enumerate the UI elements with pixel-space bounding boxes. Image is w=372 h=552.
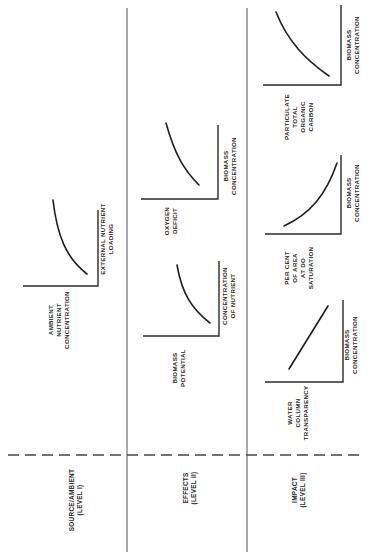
chart-curve	[177, 265, 210, 323]
chart-curve	[53, 200, 87, 274]
chart-curve	[166, 123, 199, 185]
chart-oxygen-deficit-vs-biomass: OXYGEN DEFICIT BIOMASS CONCENTRATION	[141, 123, 237, 235]
chart-axes	[141, 125, 218, 199]
level3-header: IMPACT (LEVEL III)	[291, 472, 307, 507]
x-axis-label: CONCENTRATION OF NUTRIENT	[221, 267, 236, 325]
chart-curve	[276, 12, 329, 76]
level2-header: EFFECTS (LEVEL II)	[182, 471, 198, 504]
y-axis-label: AMBIENT NUTRIENT CONCENTRATION	[47, 291, 70, 349]
chart-biomass-potential-vs-nutrient: BIOMASS POTENTIAL CONCENTRATION OF NUTRI…	[143, 261, 236, 387]
chart-transparency-vs-biomass: WATER COLUMN TRANSPARENCY BIOMASS CONCEN…	[265, 300, 358, 440]
svg-text:BIOMASS: BIOMASS	[345, 30, 352, 61]
eutrophication-levels-diagram: SOURCE/AMBIENT (LEVEL I) EFFECTS (LEVEL …	[0, 0, 372, 552]
y-axis-label: WATER COLUMN TRANSPARENCY	[286, 385, 309, 440]
svg-text:AT DO: AT DO	[299, 258, 306, 278]
svg-text:COLUMN: COLUMN	[294, 398, 301, 427]
svg-text:BIOMASS: BIOMASS	[171, 353, 178, 384]
chart-do-saturation-vs-biomass: PER CENT OF AREA AT DO SATURATION BIOMAS…	[265, 155, 360, 289]
svg-text:BIOMASS: BIOMASS	[222, 151, 229, 182]
level1-title: SOURCE/AMBIENT	[68, 469, 75, 531]
svg-text:OF AREA: OF AREA	[291, 253, 298, 283]
y-axis-label: PARTICULATE TOTAL ORGANIC CARBON	[283, 94, 314, 140]
svg-text:PER CENT: PER CENT	[283, 251, 290, 285]
svg-text:CONCENTRATION: CONCENTRATION	[351, 316, 358, 374]
svg-text:CONCENTRATION: CONCENTRATION	[353, 16, 360, 74]
chart-toc-vs-biomass: PARTICULATE TOTAL ORGANIC CARBON BIOMASS…	[263, 5, 360, 140]
chart-ambient-vs-loading: AMBIENT NUTRIENT CONCENTRATION EXTERNAL …	[23, 200, 114, 349]
svg-text:EXTERNAL NUTRIENT: EXTERNAL NUTRIENT	[99, 203, 106, 274]
svg-text:PARTICULATE: PARTICULATE	[283, 94, 290, 140]
x-axis-label: BIOMASS CONCENTRATION	[222, 137, 237, 195]
y-axis-label: BIOMASS POTENTIAL	[171, 349, 186, 387]
x-axis-label: BIOMASS CONCENTRATION	[345, 164, 360, 222]
svg-text:BIOMASS: BIOMASS	[343, 330, 350, 361]
svg-text:CONCENTRATION: CONCENTRATION	[221, 267, 228, 325]
svg-text:WATER: WATER	[286, 401, 293, 425]
y-axis-label: OXYGEN DEFICIT	[163, 207, 178, 236]
chart-axes	[265, 300, 343, 382]
svg-text:CONCENTRATION: CONCENTRATION	[353, 164, 360, 222]
svg-text:OXYGEN: OXYGEN	[163, 207, 170, 236]
level3-subtitle: (LEVEL III)	[299, 472, 307, 507]
svg-text:CONCENTRATION: CONCENTRATION	[63, 291, 70, 349]
svg-text:DEFICIT: DEFICIT	[171, 208, 178, 234]
svg-text:AMBIENT: AMBIENT	[47, 305, 54, 335]
level3-title: IMPACT	[291, 477, 298, 503]
svg-text:SATURATION: SATURATION	[307, 246, 314, 289]
level2-subtitle: (LEVEL II)	[190, 471, 198, 504]
level2-title: EFFECTS	[182, 472, 189, 504]
svg-text:ORGANIC: ORGANIC	[299, 101, 306, 133]
svg-text:TOTAL: TOTAL	[291, 106, 298, 128]
chart-axes	[265, 155, 341, 234]
level1-header: SOURCE/AMBIENT (LEVEL I)	[68, 469, 84, 531]
chart-axes	[143, 261, 219, 336]
svg-text:LOADING: LOADING	[107, 224, 114, 255]
svg-text:NUTRIENT: NUTRIENT	[55, 303, 62, 337]
level1-subtitle: (LEVEL I)	[76, 485, 84, 516]
svg-text:BIOMASS: BIOMASS	[345, 178, 352, 209]
x-axis-label: BIOMASS CONCENTRATION	[345, 16, 360, 74]
svg-text:POTENTIAL: POTENTIAL	[179, 349, 186, 387]
svg-text:OF NUTRIENT: OF NUTRIENT	[229, 274, 236, 319]
chart-curve	[289, 306, 328, 369]
x-axis-label: EXTERNAL NUTRIENT LOADING	[99, 203, 114, 274]
chart-curve	[284, 163, 337, 226]
svg-text:CARBON: CARBON	[307, 102, 314, 131]
svg-text:TRANSPARENCY: TRANSPARENCY	[302, 385, 309, 440]
chart-axes	[263, 5, 341, 85]
y-axis-label: PER CENT OF AREA AT DO SATURATION	[283, 246, 314, 289]
svg-text:CONCENTRATION: CONCENTRATION	[230, 137, 237, 195]
x-axis-label: BIOMASS CONCENTRATION	[343, 316, 358, 374]
